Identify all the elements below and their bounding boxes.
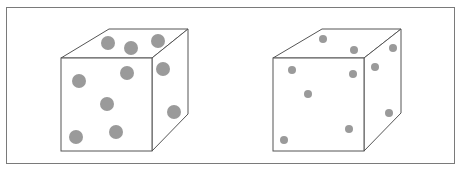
dice-diagram (0, 0, 464, 174)
dot (101, 36, 115, 50)
cube-large-dots (61, 29, 188, 151)
cube-small-dots (273, 29, 401, 151)
dot (167, 105, 181, 119)
dot (304, 90, 312, 98)
dot (371, 63, 379, 71)
dot (319, 35, 327, 43)
dot (69, 130, 83, 144)
dot (120, 66, 134, 80)
dot (100, 97, 114, 111)
dot (156, 62, 170, 76)
dot (72, 74, 86, 88)
dot (151, 34, 165, 48)
dot (350, 46, 358, 54)
dot (345, 125, 353, 133)
dot (389, 44, 397, 52)
dot (349, 70, 357, 78)
dot (280, 136, 288, 144)
dot (109, 125, 123, 139)
dot (385, 109, 393, 117)
dot (124, 41, 138, 55)
dot (288, 66, 296, 74)
